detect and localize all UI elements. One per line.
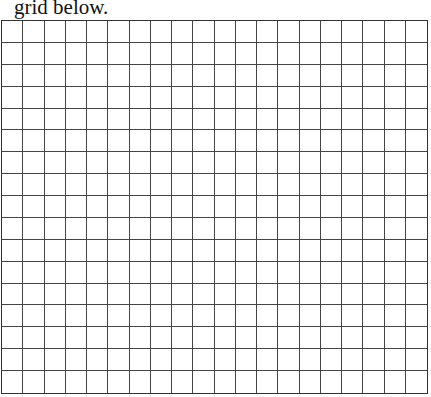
grid-cell [300,43,321,65]
grid-cell [278,65,299,87]
grid-cell [321,284,342,306]
grid-cell [215,240,236,262]
grid-cell [45,65,66,87]
grid-cell [236,305,257,327]
grid-cell [278,240,299,262]
grid-cell [363,109,384,131]
grid-cell [130,218,151,240]
grid-cell [23,21,44,43]
grid-cell [342,130,363,152]
grid-cell [193,21,214,43]
grid-cell [363,87,384,109]
grid-cell [45,196,66,218]
grid-cell [130,284,151,306]
grid-cell [363,349,384,371]
grid-cell [363,21,384,43]
grid-cell [66,43,87,65]
grid-cell [151,284,172,306]
grid-cell [130,240,151,262]
grid-cell [300,152,321,174]
grid-cell [87,240,108,262]
grid-cell [151,174,172,196]
grid-cell [385,305,406,327]
grid-cell [2,371,23,393]
grid-cell [151,305,172,327]
grid-cell [406,305,427,327]
grid-cell [257,196,278,218]
grid-cell [257,284,278,306]
grid-cell [406,371,427,393]
grid-cell [278,305,299,327]
grid-cell [385,130,406,152]
grid-cell [45,87,66,109]
grid-cell [108,349,129,371]
grid-cell [45,109,66,131]
grid-cell [236,174,257,196]
grid-cell [2,43,23,65]
grid-cell [385,349,406,371]
caption-text: grid below. [14,0,108,20]
grid-cell [23,174,44,196]
grid-cell [108,262,129,284]
grid-cell [172,240,193,262]
grid-cell [108,65,129,87]
grid-cell [406,327,427,349]
grid-cell [363,152,384,174]
grid-cell [385,65,406,87]
grid-cell [236,130,257,152]
grid-cell [236,284,257,306]
grid-cell [363,327,384,349]
grid-cell [278,43,299,65]
grid-cell [130,262,151,284]
grid-cell [193,65,214,87]
grid-cell [130,174,151,196]
grid-cell [215,130,236,152]
grid-cell [321,65,342,87]
grid-cell [257,43,278,65]
grid-cell [2,21,23,43]
grid-cell [363,371,384,393]
grid-cell [45,284,66,306]
grid-cell [321,240,342,262]
grid-cell [130,305,151,327]
grid-cell [257,65,278,87]
grid-cell [300,196,321,218]
grid-cell [2,87,23,109]
grid-cell [215,327,236,349]
grid-cell [321,109,342,131]
grid-cell [342,65,363,87]
grid-cell [278,152,299,174]
grid-cell [342,371,363,393]
grid-cell [300,21,321,43]
grid-cell [130,349,151,371]
grid-cell [300,305,321,327]
grid-cell [23,196,44,218]
grid-cell [363,305,384,327]
grid-cell [66,87,87,109]
grid-cell [215,218,236,240]
grid-cell [108,152,129,174]
grid-cell [385,21,406,43]
grid-cell [300,109,321,131]
grid-cell [66,327,87,349]
grid-cell [87,262,108,284]
grid-cell [87,87,108,109]
grid-cell [66,21,87,43]
grid-cell [130,327,151,349]
grid-cell [342,240,363,262]
grid-cell [342,43,363,65]
grid-cell [45,174,66,196]
grid-cell [321,262,342,284]
grid-cell [278,174,299,196]
grid-cell [87,196,108,218]
grid-cell [45,349,66,371]
grid-cell [236,43,257,65]
grid-cell [300,130,321,152]
grid-cell [2,240,23,262]
grid-cell [172,327,193,349]
grid-cell [66,305,87,327]
grid-cell [66,240,87,262]
grid-cell [45,218,66,240]
grid-cell [278,218,299,240]
grid-cell [66,130,87,152]
